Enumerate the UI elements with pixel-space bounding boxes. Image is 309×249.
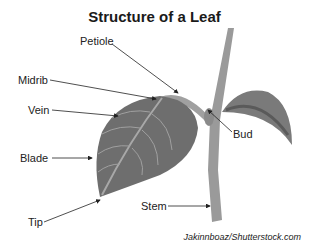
label-tip: Tip	[28, 216, 43, 228]
label-petiole: Petiole	[80, 35, 114, 47]
image-credit: Jakinnboaz/Shutterstock.com	[183, 232, 301, 242]
label-vein: Vein	[28, 104, 49, 116]
label-bud: Bud	[233, 128, 253, 140]
label-stem: Stem	[141, 200, 167, 212]
stem-shape	[208, 28, 234, 222]
label-midrib: Midrib	[18, 74, 48, 86]
label-blade: Blade	[20, 152, 48, 164]
